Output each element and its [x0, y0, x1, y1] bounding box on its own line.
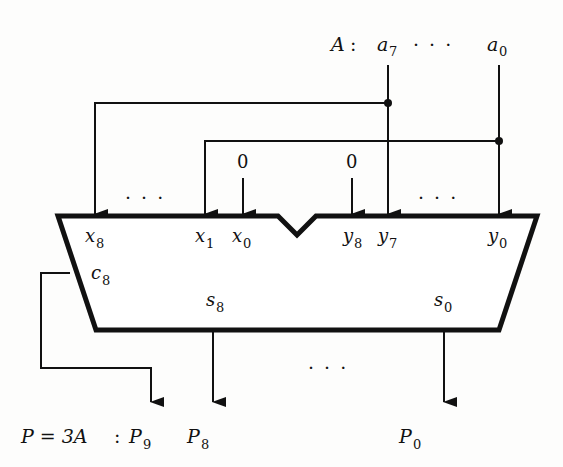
port-y7-sub: 7 [389, 236, 397, 251]
carry-out-base: c [91, 262, 101, 283]
output-label: P = 3A : P 9 P 8 P 0 [20, 425, 421, 452]
port-x8-sub: 8 [96, 236, 104, 251]
y-inputs-ellipsis: · · · [418, 186, 458, 208]
output-p9-base: P [128, 425, 143, 447]
output-ellipsis: · · · [308, 356, 348, 378]
port-y0-sub: 0 [499, 236, 507, 251]
port-x1-base: x [195, 225, 205, 246]
input-label: A : a 7 · · · a 0 [329, 33, 507, 59]
sum-s0-base: s [434, 289, 443, 310]
output-p8-base: P [186, 425, 201, 447]
input-lsb-sub: 0 [499, 44, 507, 59]
output-separator: : [114, 425, 120, 447]
input-msb-sub: 7 [389, 44, 397, 59]
zero-constant-x0: 0 [237, 151, 248, 172]
multiply-by-3-adder-diagram: A : a 7 · · · a 0 [0, 0, 563, 467]
port-x8-base: x [85, 225, 95, 246]
x-inputs-ellipsis: · · · [125, 186, 165, 208]
junction-dot-a7 [384, 99, 392, 107]
adder-block [58, 216, 537, 330]
input-separator: : [350, 33, 356, 55]
output-expression: P = 3A [20, 425, 88, 447]
input-name: A [329, 33, 345, 55]
port-x0-sub: 0 [243, 236, 251, 251]
port-y7-base: y [377, 225, 389, 246]
diagram-canvas: A : a 7 · · · a 0 [0, 0, 563, 467]
output-p0-base: P [398, 425, 413, 447]
input-ellipsis: · · · [413, 33, 453, 55]
sum-s0-sub: 0 [444, 300, 452, 315]
port-x1-sub: 1 [206, 236, 214, 251]
port-x0-base: x [232, 225, 242, 246]
port-y8-sub: 8 [354, 236, 362, 251]
port-y0-base: y [487, 225, 499, 246]
sum-s8-base: s [206, 289, 215, 310]
zero-constant-y8: 0 [346, 151, 357, 172]
sum-s8-sub: 8 [216, 300, 224, 315]
input-lsb-base: a [487, 33, 498, 55]
output-p9-sub: 9 [143, 437, 151, 452]
input-msb-base: a [377, 33, 388, 55]
junction-dot-a0 [495, 137, 503, 145]
output-p0-sub: 0 [413, 437, 421, 452]
carry-out-sub: 8 [102, 273, 110, 288]
output-p8-sub: 8 [201, 437, 209, 452]
port-y8-base: y [342, 225, 354, 246]
